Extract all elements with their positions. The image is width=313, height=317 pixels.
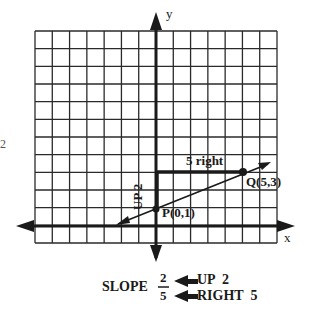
rise-label: UP 2 — [130, 184, 146, 210]
y-axis-arrow-up-icon — [150, 12, 162, 30]
denominator-arrow-icon — [174, 290, 198, 302]
x-axis-arrow-left-icon — [16, 220, 34, 232]
run-label: 5 right — [186, 153, 223, 169]
line-arrow-left-icon — [116, 216, 130, 225]
y-axis-label: y — [166, 6, 173, 22]
slope-numerator: 2 — [160, 270, 167, 286]
slope-denominator: 5 — [160, 288, 167, 304]
numerator-arrow-icon — [174, 275, 198, 287]
point-q-label: Q(5,3) — [246, 174, 281, 190]
point-p-label: P(0,1) — [162, 205, 195, 221]
margin-mark: 2 — [0, 137, 6, 152]
point-p — [153, 206, 160, 213]
slope-prefix: SLOPE — [102, 279, 148, 295]
coordinate-plane — [0, 0, 313, 317]
x-axis-label: x — [284, 230, 291, 246]
y-axis-arrow-down-icon — [150, 245, 162, 262]
denominator-note: RIGHT 5 — [197, 288, 257, 304]
numerator-note: UP 2 — [197, 272, 229, 288]
